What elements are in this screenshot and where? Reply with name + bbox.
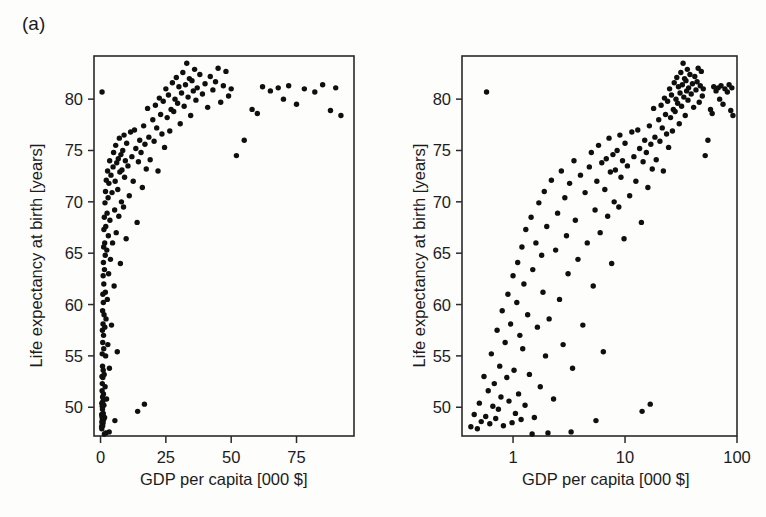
data-point [691,105,696,110]
data-point [141,123,146,128]
data-point [312,89,317,94]
data-point [504,375,509,380]
data-point [621,236,626,241]
data-point [205,105,210,110]
data-point [106,233,111,238]
data-point [479,419,484,424]
data-point [475,426,480,431]
data-point [660,125,665,130]
data-point [557,297,562,302]
data-point [657,139,662,144]
y-tick-label: 65 [65,244,83,262]
data-point [101,391,106,396]
data-point [183,82,188,87]
data-point [511,368,516,373]
data-point [683,78,688,83]
data-point [155,168,160,173]
data-point [184,60,189,65]
data-point [667,86,672,91]
data-point [137,138,142,143]
data-point [180,70,185,75]
data-point [689,91,694,96]
scatter-series [99,60,344,436]
data-point [179,90,184,95]
data-point [678,70,683,75]
data-point [521,281,526,286]
data-point [625,163,630,168]
data-point [118,261,123,266]
data-point [320,82,325,87]
y-tick-label: 55 [433,347,451,365]
data-point [540,290,545,295]
data-point [560,342,565,347]
data-point [633,179,638,184]
data-point [518,417,523,422]
data-point [107,218,112,223]
data-point [650,166,655,171]
data-point [648,142,653,147]
data-point [730,113,735,118]
data-point [150,117,155,122]
y-tick-label: 70 [65,193,83,211]
data-point [481,374,486,379]
y-tick-label: 55 [65,347,83,365]
data-point [539,253,544,258]
data-point [101,333,106,338]
data-point [242,138,247,143]
data-point [670,128,675,133]
data-point [333,85,338,90]
data-point [514,300,519,305]
data-point [568,429,573,434]
data-point [175,101,180,106]
data-point [592,207,597,212]
data-point [133,146,138,151]
x-tick-label: 75 [287,448,305,466]
data-point [113,143,118,148]
x-tick-label: 0 [96,448,105,466]
data-point [644,150,649,155]
data-point [129,154,134,159]
data-point [158,112,163,117]
scatter-series [468,60,735,436]
data-point [559,168,564,173]
data-point [565,271,570,276]
data-point [163,86,168,91]
data-point [147,157,152,162]
data-point [642,138,647,143]
panel-a: (a) 505560657075800255075 GDP per capita… [0,0,383,517]
data-point [123,158,128,163]
data-point [135,409,140,414]
data-point [164,115,169,120]
panel-b-x-axis-title: GDP per capita [000 $] [522,470,690,489]
data-point [613,167,618,172]
data-point [648,401,653,406]
data-point [151,139,156,144]
data-point [121,132,126,137]
data-point [570,366,575,371]
data-point [666,145,671,150]
data-point [661,168,666,173]
data-point [294,102,299,107]
data-point [193,97,198,102]
panel-b: (b) 50556065707580110100 [383,0,766,517]
data-point [101,372,106,377]
data-point [508,321,513,326]
data-point [105,297,110,302]
data-point [487,421,492,426]
data-point [658,103,663,108]
data-point [189,78,194,83]
data-point [697,100,702,105]
data-point [664,131,669,136]
data-point [509,420,514,425]
data-point [585,240,590,245]
data-point [587,164,592,169]
data-point [620,158,625,163]
data-point [685,67,690,72]
data-point [202,81,207,86]
data-point [629,129,634,134]
data-point [639,409,644,414]
plot-frame [94,56,354,436]
data-point [268,88,273,93]
data-point [610,152,615,157]
data-point [573,218,578,223]
